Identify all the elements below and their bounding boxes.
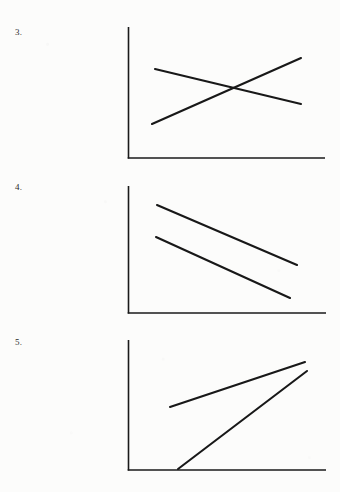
series-line-upper-4 <box>157 205 297 265</box>
line-graph-5 <box>0 333 340 483</box>
figure-exercise-4 <box>0 178 340 323</box>
figure-exercise-5 <box>0 333 340 483</box>
series-line-steep-5 <box>178 371 307 469</box>
line-graph-4 <box>0 178 340 323</box>
series-line-shallow-5 <box>170 362 305 407</box>
scanned-page: 3. 4. 5. <box>0 0 340 492</box>
series-line-decreasing-3 <box>155 69 301 104</box>
line-graph-3 <box>0 20 340 170</box>
series-line-lower-4 <box>156 237 290 298</box>
figure-exercise-3 <box>0 20 340 170</box>
series-line-increasing-3 <box>152 58 301 124</box>
